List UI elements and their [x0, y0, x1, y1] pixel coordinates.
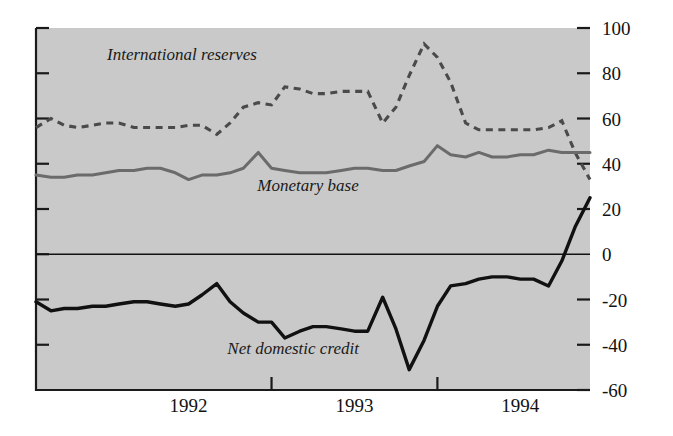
series-label-monetary-base: Monetary base [256, 176, 359, 195]
x-axis-tick-labels: 199219931994 [170, 395, 540, 416]
y-tick-label: -60 [602, 380, 627, 401]
chart-svg: 100806040200-20-40-60 199219931994 Inter… [0, 0, 673, 436]
y-tick-label: 40 [602, 154, 621, 175]
y-tick-label: 80 [602, 63, 621, 84]
chart-page: 100806040200-20-40-60 199219931994 Inter… [0, 0, 673, 436]
x-tick-label: 1993 [335, 395, 373, 416]
series-label-net-domestic-credit: Net domestic credit [226, 339, 360, 358]
y-tick-label: 60 [602, 109, 621, 130]
y-axis-tick-labels: 100806040200-20-40-60 [602, 18, 631, 401]
y-tick-label: 20 [602, 199, 621, 220]
x-tick-label: 1994 [501, 395, 540, 416]
y-tick-label: 0 [602, 244, 612, 265]
series-label-international-reserves: International reserves [106, 45, 257, 64]
x-tick-label: 1992 [170, 395, 208, 416]
y-tick-label: -40 [602, 335, 627, 356]
plot-background [35, 28, 590, 390]
y-tick-label: 100 [602, 18, 631, 39]
y-tick-label: -20 [602, 290, 627, 311]
